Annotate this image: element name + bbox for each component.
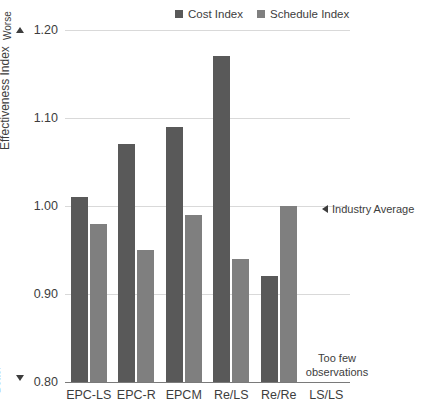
bar-schedule-index[interactable] bbox=[90, 224, 107, 382]
direction-label-better: Better bbox=[0, 366, 2, 393]
x-axis-label-re-ls: Re/LS bbox=[208, 388, 256, 402]
bar-schedule-index[interactable] bbox=[185, 215, 202, 382]
y-axis-title: Effectiveness Index bbox=[0, 46, 12, 150]
left-triangle-icon bbox=[322, 205, 328, 213]
y-tick-label: 1.20 bbox=[12, 23, 58, 37]
x-axis-label-ls-ls: LS/LS bbox=[303, 388, 351, 402]
bar-cost-index[interactable] bbox=[261, 276, 278, 382]
y-tick-label: 1.10 bbox=[12, 111, 58, 125]
plot-area bbox=[65, 30, 350, 382]
industry-average-label: Industry Average bbox=[332, 203, 414, 215]
x-axis-label-re-re: Re/Re bbox=[255, 388, 303, 402]
bar-schedule-index[interactable] bbox=[137, 250, 154, 382]
bar-cost-index[interactable] bbox=[213, 56, 230, 382]
bar-schedule-index[interactable] bbox=[280, 206, 297, 382]
legend-label-cost-index: Cost Index bbox=[188, 8, 243, 20]
legend-item-cost-index: Cost Index bbox=[175, 8, 243, 20]
x-axis-label-epc-ls: EPC-LS bbox=[65, 388, 113, 402]
industry-average-annotation: Industry Average bbox=[322, 203, 414, 215]
y-tick-label: 0.80 bbox=[12, 375, 58, 389]
too-few-line-2: observations bbox=[297, 366, 377, 380]
bar-groups bbox=[65, 30, 350, 382]
bar-cost-index[interactable] bbox=[166, 127, 183, 382]
chart-legend: Cost Index Schedule Index bbox=[175, 8, 349, 20]
legend-swatch-cost-index bbox=[175, 10, 183, 18]
bar-cost-index[interactable] bbox=[71, 197, 88, 382]
bar-group-epc-r bbox=[113, 30, 161, 382]
bar-group-re-re bbox=[255, 30, 303, 382]
effectiveness-index-bar-chart: Cost Index Schedule Index Worse Better E… bbox=[0, 0, 435, 417]
bar-group-epcm bbox=[160, 30, 208, 382]
legend-swatch-schedule-index bbox=[257, 10, 265, 18]
bar-group-epc-ls bbox=[65, 30, 113, 382]
bar-group-re-ls bbox=[208, 30, 256, 382]
too-few-line-1: Too few bbox=[297, 352, 377, 366]
y-tick-label: 0.90 bbox=[12, 287, 58, 301]
x-axis-labels: EPC-LSEPC-REPCMRe/LSRe/ReLS/LS bbox=[65, 388, 350, 402]
y-tick-label: 1.00 bbox=[12, 199, 58, 213]
legend-item-schedule-index: Schedule Index bbox=[257, 8, 349, 20]
too-few-observations-annotation: Too few observations bbox=[297, 352, 377, 380]
x-axis-label-epc-r: EPC-R bbox=[113, 388, 161, 402]
x-axis-label-epcm: EPCM bbox=[160, 388, 208, 402]
bar-cost-index[interactable] bbox=[118, 144, 135, 382]
bar-schedule-index[interactable] bbox=[232, 259, 249, 382]
legend-label-schedule-index: Schedule Index bbox=[270, 8, 349, 20]
